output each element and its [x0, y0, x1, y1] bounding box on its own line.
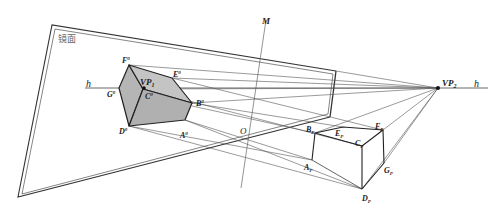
label-ap: AP [303, 163, 313, 173]
vp-line [192, 88, 438, 103]
label-bp: BP [305, 125, 315, 135]
mirror-perspective-diagram: 镜面 h h M O VP1 VP2 F0 E0 G0 C0 B0 D0 A0 … [0, 0, 500, 214]
horizon-label-right: h [474, 78, 479, 89]
construction-line [172, 78, 383, 130]
mirror-label: 镜面 [58, 33, 76, 44]
reflected-box [119, 65, 192, 126]
vp2-label: VP2 [442, 78, 457, 89]
label-f0: F0 [121, 56, 130, 65]
label-d0: D0 [118, 127, 128, 136]
diagram-canvas: 镜面 h h M O VP1 VP2 F0 E0 G0 C0 B0 D0 A0 … [0, 0, 500, 214]
horizon-label-left: h [86, 78, 91, 89]
real-box-edge [312, 133, 315, 160]
label-e0: E0 [172, 70, 181, 79]
vp2-point [436, 86, 440, 90]
real-box-edge [383, 130, 384, 163]
label-dp: DP [361, 194, 372, 204]
construction-line [192, 103, 343, 127]
vp-line [336, 71, 438, 88]
label-b0: B0 [195, 99, 204, 108]
label-cp: CP [355, 139, 364, 149]
mirror-axis-line [241, 20, 266, 188]
vp-line [362, 88, 438, 189]
origin-label: O [240, 126, 247, 136]
vp-line [383, 88, 438, 130]
label-fp: FP [374, 122, 384, 132]
label-g0: G0 [107, 90, 116, 99]
real-box-edge [362, 163, 384, 189]
figure-caption-cut-off [120, 0, 370, 4]
real-box-edge [312, 160, 362, 189]
label-a0: A0 [179, 131, 188, 140]
vp-line [172, 78, 438, 88]
mirror-axis-label: M [261, 16, 271, 26]
label-gp: GP [384, 166, 394, 176]
label-ep: EP [334, 129, 344, 139]
real-box [312, 127, 384, 189]
